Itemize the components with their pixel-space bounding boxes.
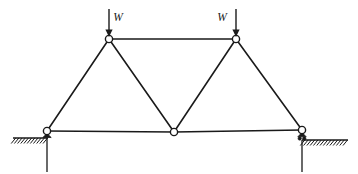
truss-members [47, 39, 302, 132]
support-right [298, 133, 348, 173]
load-right: W [217, 9, 239, 37]
joint-bottom-left [43, 127, 50, 134]
member-bottom-chord-left [47, 131, 174, 132]
member-diagonal-right-outer [236, 39, 302, 130]
roller-wheel [303, 137, 306, 140]
joint-bottom-right [298, 126, 305, 133]
load-label: W [113, 11, 124, 23]
support-left [11, 134, 51, 173]
truss-joints [43, 35, 305, 135]
member-diagonal-left-inner [109, 39, 174, 132]
applied-loads: WW [105, 9, 239, 37]
joint-bottom-center [170, 128, 177, 135]
load-label: W [217, 11, 228, 23]
truss-diagram-canvas: WW [0, 0, 358, 174]
truss-figure: WW [0, 0, 358, 174]
load-left: W [105, 9, 124, 37]
member-diagonal-right-inner [174, 39, 236, 132]
supports-group [11, 133, 348, 173]
member-bottom-chord-right [174, 130, 302, 132]
roller-wheel [298, 137, 301, 140]
member-diagonal-left-outer [47, 39, 109, 131]
